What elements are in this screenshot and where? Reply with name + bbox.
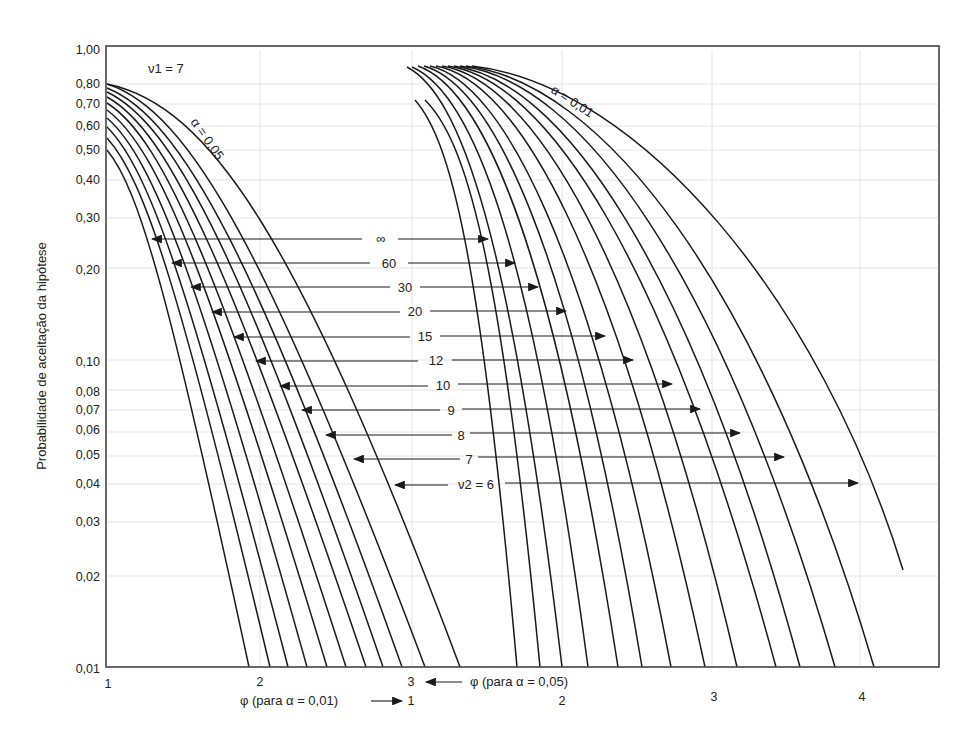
svg-text:0,70: 0,70 (76, 97, 100, 111)
svg-text:1: 1 (105, 677, 112, 691)
label-v2-60: 60 (382, 256, 396, 271)
label-v2-9: 9 (447, 403, 454, 418)
svg-text:2: 2 (257, 675, 264, 689)
svg-text:0,40: 0,40 (76, 173, 100, 187)
svg-text:0,07: 0,07 (76, 403, 100, 417)
label-v2-20: 20 (408, 304, 422, 319)
curves-alpha-001 (407, 66, 903, 667)
x-axis-title-alpha-001: φ (para α = 0,01) (240, 693, 338, 708)
y-axis-title: Probabilidade de aceitação da hipótese (34, 242, 49, 470)
svg-text:1: 1 (408, 694, 415, 708)
svg-text:0,60: 0,60 (76, 119, 100, 133)
svg-text:0,04: 0,04 (76, 477, 100, 491)
svg-text:0,06: 0,06 (76, 423, 100, 437)
grid (107, 50, 938, 666)
label-v2-10: 10 (436, 378, 450, 393)
svg-text:0,05: 0,05 (76, 448, 100, 462)
svg-text:0,10: 0,10 (76, 355, 100, 369)
label-v2-6: ν2 = 6 (458, 477, 494, 492)
x-axis-title-alpha-005: φ (para α = 0,05) (470, 674, 568, 689)
label-v2-7: 7 (465, 452, 472, 467)
svg-text:0,20: 0,20 (76, 263, 100, 277)
plot-frame (106, 46, 939, 667)
label-v2-30: 30 (398, 280, 412, 295)
svg-text:0,03: 0,03 (76, 515, 100, 529)
svg-text:1,00: 1,00 (76, 43, 100, 57)
y-axis-ticks: 1,00 0,80 0,70 0,60 0,50 0,40 0,30 0,20 … (76, 43, 100, 676)
svg-text:0,01: 0,01 (76, 662, 100, 676)
svg-text:0,30: 0,30 (76, 211, 100, 225)
svg-text:0,08: 0,08 (76, 385, 100, 399)
curves-alpha-005 (107, 84, 460, 667)
svg-text:3: 3 (711, 690, 718, 704)
svg-text:0,80: 0,80 (76, 77, 100, 91)
svg-text:0,50: 0,50 (76, 143, 100, 157)
svg-text:0,02: 0,02 (76, 570, 100, 584)
svg-text:3: 3 (408, 675, 415, 689)
svg-text:4: 4 (859, 690, 866, 704)
alpha-005-label: α = 0,05 (188, 115, 228, 163)
label-v2-12: 12 (429, 353, 443, 368)
v1-label: ν1 = 7 (148, 61, 184, 76)
oc-curve-chart: ∞ 60 30 20 15 12 10 9 8 7 ν2 = 6 ν1 = 7 … (0, 0, 975, 746)
label-v2-inf: ∞ (376, 231, 385, 246)
label-v2-15: 15 (418, 329, 432, 344)
label-v2-8: 8 (457, 428, 464, 443)
svg-text:2: 2 (559, 694, 566, 708)
